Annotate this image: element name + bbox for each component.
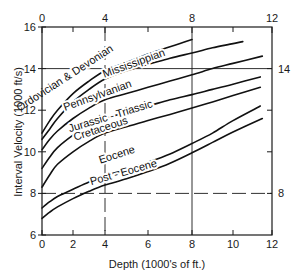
y-tick-label-left: 12 <box>24 104 36 116</box>
y-axis-title: Interval Velocity (1000 ft/s) <box>12 67 24 197</box>
y-tick-label-left: 14 <box>24 63 36 75</box>
x-tick-label-bottom: 0 <box>39 238 45 250</box>
y-tick-label-right: 8 <box>278 187 284 199</box>
x-tick-label-top: 12 <box>266 12 278 24</box>
y-tick-label-left: 16 <box>24 21 36 33</box>
x-tick-label-top: 8 <box>189 12 195 24</box>
x-tick-label-bottom: 12 <box>266 238 278 250</box>
x-tick-label-bottom: 8 <box>189 238 195 250</box>
y-tick-label-right: 14 <box>278 63 290 75</box>
y-tick-label-left: 8 <box>30 187 36 199</box>
curve-label: Eocene <box>97 143 136 166</box>
x-tick-label-bottom: 2 <box>70 238 76 250</box>
velocity-depth-chart: Ordovician & DevonianOrdovician & Devoni… <box>0 0 296 275</box>
x-tick-label-bottom: 6 <box>145 238 151 250</box>
y-tick-label-left: 10 <box>24 146 36 158</box>
x-tick-label-top: 0 <box>39 12 45 24</box>
x-tick-label-top: 4 <box>102 12 108 24</box>
x-tick-label-bottom: 4 <box>102 238 108 250</box>
x-tick-label-bottom: 10 <box>227 238 239 250</box>
curve-labels: Ordovician & DevonianOrdovician & Devoni… <box>14 42 166 187</box>
y-tick-label-left: 6 <box>30 229 36 241</box>
x-axis-title: Depth (1000's of ft.) <box>109 258 205 270</box>
